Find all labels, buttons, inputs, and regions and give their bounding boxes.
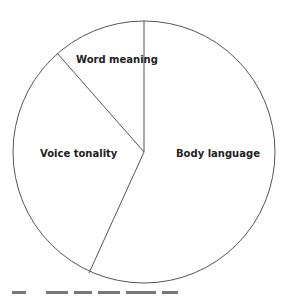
pie-chart: Word meaning Voice tonality Body languag… xyxy=(0,0,286,298)
figure-caption-truncated xyxy=(12,291,282,298)
slice-label-voice-tonality: Voice tonality xyxy=(40,148,118,159)
slice-label-word-meaning: Word meaning xyxy=(76,54,158,65)
slice-label-body-language: Body language xyxy=(176,148,260,159)
